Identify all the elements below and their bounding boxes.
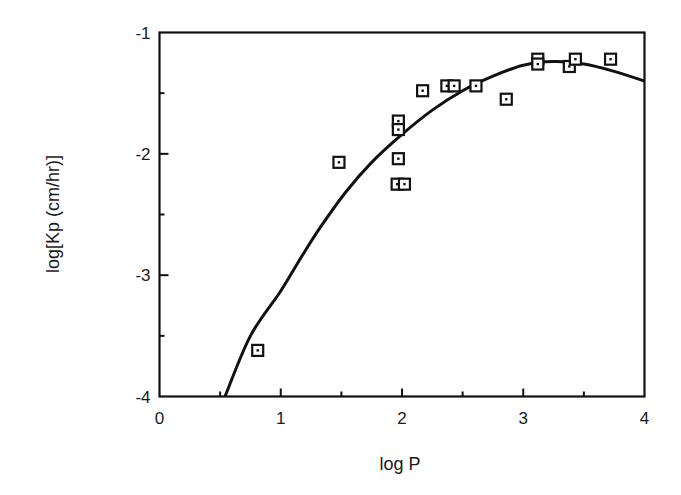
- x-tick-label: 4: [640, 409, 649, 428]
- x-tick-label: 2: [397, 409, 406, 428]
- x-axis-ticks: [220, 389, 584, 397]
- y-axis-label: log[Kp (cm/hr)]: [43, 155, 63, 273]
- fitted-curve: [225, 62, 645, 397]
- y-tick-label: -4: [135, 388, 150, 407]
- data-point: [417, 85, 428, 96]
- x-axis-tick-labels: 01234: [155, 409, 649, 428]
- data-point: [532, 59, 543, 70]
- data-point: [501, 94, 512, 105]
- x-tick-label: 1: [276, 409, 285, 428]
- plot-border: [160, 33, 645, 397]
- data-point: [570, 54, 581, 65]
- x-axis-label: log P: [379, 454, 420, 474]
- data-point: [252, 345, 263, 356]
- data-point: [333, 157, 344, 168]
- y-tick-label: -1: [135, 24, 150, 43]
- data-point: [470, 80, 481, 91]
- y-tick-label: -3: [135, 266, 150, 285]
- chart: 01234 -1-2-3-4 log P log[Kp (cm/hr)]: [0, 0, 681, 495]
- data-point: [399, 179, 410, 190]
- fitted-curve-line: [225, 62, 645, 397]
- data-point: [393, 153, 404, 164]
- x-tick-label: 0: [155, 409, 164, 428]
- x-tick-label: 3: [519, 409, 528, 428]
- data-point: [605, 54, 616, 65]
- y-axis-tick-labels: -1-2-3-4: [135, 24, 150, 407]
- y-axis-ticks: [160, 93, 169, 336]
- plot-frame: [160, 33, 645, 397]
- data-point: [449, 80, 460, 91]
- y-tick-label: -2: [135, 145, 150, 164]
- data-point: [393, 124, 404, 135]
- scatter-points: [252, 54, 616, 356]
